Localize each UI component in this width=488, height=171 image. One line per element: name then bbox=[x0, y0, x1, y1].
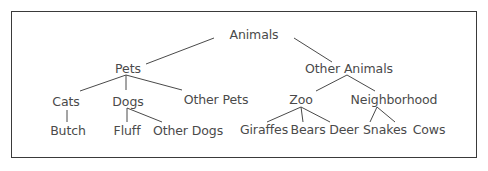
edge-neighborhood-snakes bbox=[370, 107, 377, 122]
edge-dogs-other_dogs bbox=[127, 108, 162, 122]
node-deer: Deer bbox=[329, 124, 359, 137]
edge-other_animals-zoo bbox=[316, 75, 347, 91]
edge-other_animals-neighborhood bbox=[347, 75, 375, 91]
edge-zoo-deer bbox=[301, 107, 330, 122]
edge-pets-cats bbox=[80, 75, 126, 91]
node-fluff: Fluff bbox=[114, 125, 141, 138]
node-zoo: Zoo bbox=[289, 94, 313, 107]
node-cows: Cows bbox=[413, 124, 446, 137]
edge-pets-other_pets bbox=[126, 75, 182, 90]
node-animals: Animals bbox=[229, 29, 278, 42]
edge-animals-pets bbox=[146, 38, 214, 64]
node-bears: Bears bbox=[290, 124, 325, 137]
node-giraffes: Giraffes bbox=[240, 124, 288, 137]
node-butch: Butch bbox=[50, 125, 86, 138]
edge-animals-other_animals bbox=[294, 38, 332, 62]
node-snakes: Snakes bbox=[363, 124, 407, 137]
edge-zoo-bears bbox=[301, 107, 303, 122]
edge-zoo-giraffes bbox=[267, 107, 301, 122]
node-pets: Pets bbox=[115, 63, 141, 76]
node-other-pets: Other Pets bbox=[184, 94, 249, 107]
node-other-animals: Other Animals bbox=[305, 63, 393, 76]
node-neighborhood: Neighborhood bbox=[351, 94, 438, 107]
node-other-dogs: Other Dogs bbox=[153, 125, 223, 138]
node-cats: Cats bbox=[52, 96, 79, 109]
edge-neighborhood-cows bbox=[377, 107, 395, 122]
node-dogs: Dogs bbox=[112, 96, 143, 109]
tree-edges bbox=[0, 0, 488, 171]
